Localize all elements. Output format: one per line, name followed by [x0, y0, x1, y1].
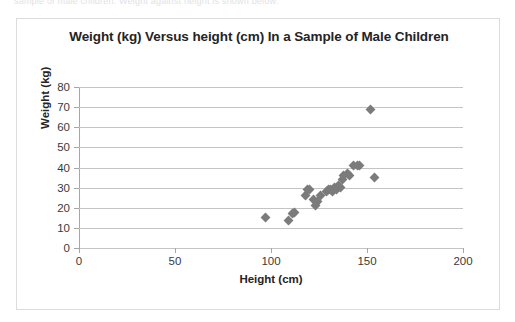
gridline-y-50 [79, 147, 463, 148]
x-tick-50 [175, 248, 176, 253]
gridline-y-70 [79, 107, 463, 108]
gridline-y-30 [79, 188, 463, 189]
y-tick-label-10: 10 [57, 222, 70, 234]
x-tick-150 [367, 248, 368, 253]
y-tick-label-30: 30 [57, 182, 70, 194]
scan-artifact-text: sample of male children. Weight against … [14, 0, 314, 8]
gridline-y-20 [79, 208, 463, 209]
y-tick-60 [74, 127, 79, 128]
y-tick-20 [74, 208, 79, 209]
x-axis-title: Height (cm) [79, 273, 463, 285]
scatter-point [370, 173, 380, 183]
x-tick-label-50: 50 [169, 255, 182, 267]
x-tick-0 [79, 248, 80, 253]
gridline-y-40 [79, 168, 463, 169]
y-tick-label-70: 70 [57, 101, 70, 113]
chart-container: Weight (kg) Versus height (cm) In a Samp… [16, 18, 500, 310]
scatter-point [260, 213, 270, 223]
y-tick-label-80: 80 [57, 81, 70, 93]
gridline-y-80 [79, 87, 463, 88]
y-tick-80 [74, 87, 79, 88]
y-tick-70 [74, 107, 79, 108]
y-tick-label-50: 50 [57, 141, 70, 153]
y-tick-50 [74, 147, 79, 148]
y-tick-30 [74, 188, 79, 189]
plot-area: 01020304050607080 050100150200 [79, 87, 463, 248]
y-tick-label-40: 40 [57, 162, 70, 174]
y-tick-label-0: 0 [64, 242, 70, 254]
x-tick-label-200: 200 [453, 255, 472, 267]
x-tick-100 [271, 248, 272, 253]
y-tick-10 [74, 228, 79, 229]
x-tick-label-150: 150 [357, 255, 376, 267]
y-tick-40 [74, 168, 79, 169]
y-tick-label-60: 60 [57, 121, 70, 133]
x-tick-200 [463, 248, 464, 253]
y-axis-title: Weight (kg) [39, 67, 51, 129]
scatter-point [366, 104, 376, 114]
y-tick-label-20: 20 [57, 202, 70, 214]
chart-title: Weight (kg) Versus height (cm) In a Samp… [57, 28, 461, 45]
x-tick-label-0: 0 [76, 255, 82, 267]
gridline-y-60 [79, 127, 463, 128]
gridline-y-10 [79, 228, 463, 229]
x-tick-label-100: 100 [261, 255, 280, 267]
